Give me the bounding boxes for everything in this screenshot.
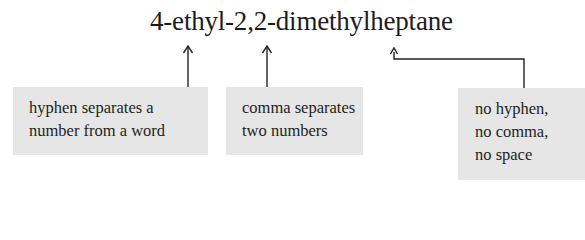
arrow-join-icon [394,52,524,88]
annotation-text: comma separates [242,96,363,119]
annotation-text: number from a word [29,119,208,142]
annotation-hyphen-box: hyphen separates a number from a word [13,87,208,155]
annotation-text: no space [475,143,585,166]
annotation-comma-box: comma separates two numbers [226,87,363,155]
annotation-text: two numbers [242,119,363,142]
annotation-text: no comma, [475,120,585,143]
annotation-text: hyphen separates a [29,96,208,119]
annotation-text: no hyphen, [475,97,585,120]
annotation-join-box: no hyphen, no comma, no space [458,88,585,180]
